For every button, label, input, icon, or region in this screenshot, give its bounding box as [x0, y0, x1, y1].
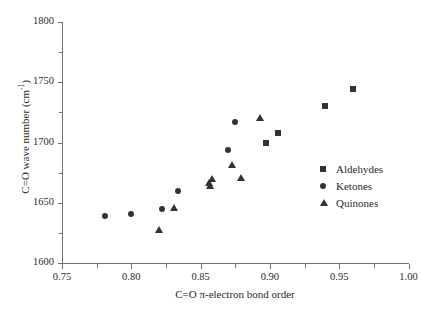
y-tick-major: [58, 82, 63, 83]
y-tick-label: 1800: [16, 15, 54, 26]
x-tick-major: [339, 264, 340, 269]
square-glyph: [320, 166, 326, 172]
data-point-ketones: [159, 206, 165, 212]
y-tick-major: [58, 143, 63, 144]
x-tick-label: 0.80: [111, 271, 151, 282]
x-tick-minor: [305, 264, 306, 268]
legend-item-ketones[interactable]: Ketones: [320, 177, 383, 194]
data-point-quinones: [237, 174, 245, 181]
triangle-glyph: [320, 199, 328, 206]
y-axis-title-main: C=O wave number (cm: [19, 90, 31, 194]
y-tick-minor: [59, 52, 63, 53]
data-point-ketones: [225, 147, 231, 153]
data-point-quinones: [206, 182, 214, 189]
legend-item-quinones[interactable]: Quinones: [320, 194, 383, 211]
data-point-quinones: [155, 226, 163, 233]
x-tick-label: 0.75: [42, 271, 82, 282]
legend-label: Quinones: [336, 197, 378, 209]
x-tick-minor: [97, 264, 98, 268]
data-point-ketones: [102, 213, 108, 219]
x-axis-title: C=O π-electron bond order: [62, 288, 408, 300]
scatter-chart: 16001650170017501800 0.750.800.850.900.9…: [0, 0, 422, 312]
x-tick-major: [201, 264, 202, 269]
x-tick-major: [62, 264, 63, 269]
data-point-aldehydes: [322, 103, 328, 109]
chart-legend: AldehydesKetonesQuinones: [320, 160, 383, 211]
legend-label: Ketones: [336, 180, 372, 192]
y-axis-title-superscript: -1: [17, 84, 26, 90]
data-point-quinones: [208, 175, 216, 182]
y-axis-title: C=O wave number (cm-1): [17, 47, 31, 227]
legend-label: Aldehydes: [336, 163, 383, 175]
y-tick-label: 1600: [16, 256, 54, 267]
data-point-aldehydes: [263, 140, 269, 146]
square-marker-icon: [320, 166, 336, 172]
x-tick-major: [131, 264, 132, 269]
x-tick-major: [270, 264, 271, 269]
x-tick-label: 0.85: [181, 271, 221, 282]
data-point-aldehydes: [275, 130, 281, 136]
x-tick-label: 0.90: [250, 271, 290, 282]
x-tick-minor: [374, 264, 375, 268]
circle-marker-icon: [320, 183, 336, 189]
x-tick-major: [409, 264, 410, 269]
x-tick-minor: [166, 264, 167, 268]
y-tick-major: [58, 22, 63, 23]
y-tick-minor: [59, 233, 63, 234]
data-point-ketones: [232, 119, 238, 125]
data-point-aldehydes: [350, 86, 356, 92]
x-tick-label: 1.00: [389, 271, 422, 282]
data-point-ketones: [128, 211, 134, 217]
data-point-quinones: [170, 204, 178, 211]
data-point-quinones: [256, 114, 264, 121]
y-axis-title-tail: ): [19, 80, 31, 84]
x-tick-minor: [235, 264, 236, 268]
data-point-quinones: [228, 161, 236, 168]
legend-item-aldehydes[interactable]: Aldehydes: [320, 160, 383, 177]
x-tick-label: 0.95: [319, 271, 359, 282]
triangle-marker-icon: [320, 199, 336, 206]
y-tick-major: [58, 203, 63, 204]
y-tick-minor: [59, 173, 63, 174]
circle-glyph: [320, 183, 326, 189]
y-tick-minor: [59, 112, 63, 113]
data-point-ketones: [175, 188, 181, 194]
